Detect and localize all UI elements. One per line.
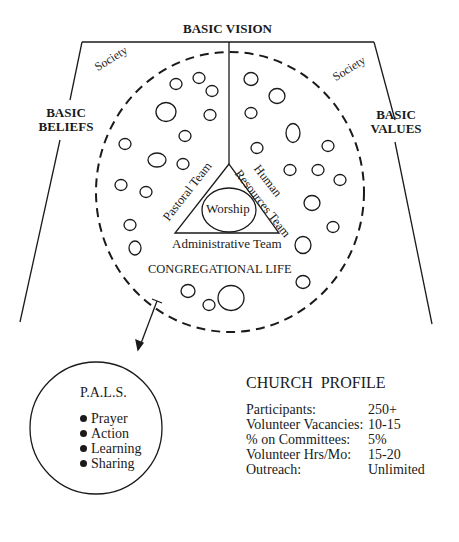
basic-beliefs-line1: BASIC xyxy=(36,106,96,120)
profile-row: % on Committees:5% xyxy=(246,432,425,447)
profile-row: Volunteer Vacancies:10-15 xyxy=(246,417,425,432)
bullet-icon xyxy=(80,445,87,452)
arrow-to-pals xyxy=(136,299,162,350)
basic-values-line1: BASIC xyxy=(366,108,426,122)
church-profile-title: CHURCH PROFILE xyxy=(246,374,386,392)
administrative-team-label: Administrative Team xyxy=(172,236,282,252)
bullet-icon xyxy=(80,460,87,467)
basic-vision-label: BASIC VISION xyxy=(183,22,272,36)
pals-item-action: Action xyxy=(80,426,142,441)
pals-item-learning: Learning xyxy=(80,441,142,456)
society-frame xyxy=(20,42,432,324)
pals-title: P.A.L.S. xyxy=(80,385,142,401)
bullet-icon xyxy=(80,430,87,437)
basic-beliefs-line2: BELIEFS xyxy=(36,120,96,134)
profile-row: Volunteer Hrs/Mo:15-20 xyxy=(246,447,425,462)
profile-row: Outreach:Unlimited xyxy=(246,462,425,477)
pals-box: P.A.L.S. Prayer Action Learning Sharing xyxy=(80,385,142,471)
basic-values-line2: VALUES xyxy=(366,122,426,136)
pals-item-sharing: Sharing xyxy=(80,456,142,471)
basic-values-label: BASIC VALUES xyxy=(366,108,426,136)
congregational-circle xyxy=(96,52,364,332)
worship-label: Worship xyxy=(206,201,250,217)
church-profile-table: Participants:250+ Volunteer Vacancies:10… xyxy=(246,402,425,477)
profile-row: Participants:250+ xyxy=(246,402,425,417)
pals-item-prayer: Prayer xyxy=(80,411,142,426)
bullet-icon xyxy=(80,415,87,422)
congregational-life-label: CONGREGATIONAL LIFE xyxy=(148,262,292,277)
basic-beliefs-label: BASIC BELIEFS xyxy=(36,106,96,134)
